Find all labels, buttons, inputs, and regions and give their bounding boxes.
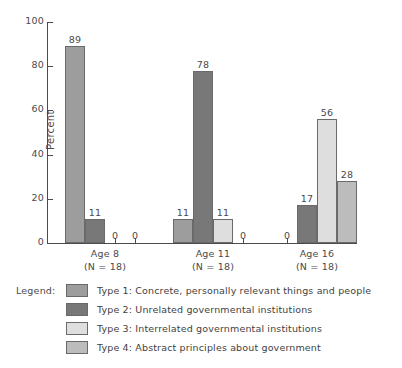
x-axis-group-label: Age 8(N = 18) — [65, 248, 145, 273]
group-name: Age 11 — [173, 248, 253, 261]
bar-chart-figure: Percent 020406080100 8911001178110017562… — [0, 0, 402, 368]
bar-value-label: 78 — [197, 59, 210, 70]
y-axis-tick-label: 100 — [10, 15, 44, 26]
x-axis-group-label: Age 11(N = 18) — [173, 248, 253, 273]
bar-value-label: 89 — [69, 34, 82, 45]
group-sample-size: (N = 18) — [173, 261, 253, 274]
x-axis-line — [47, 243, 357, 244]
x-axis-group-label: Age 16(N = 18) — [277, 248, 357, 273]
bar-value-label: 28 — [341, 169, 354, 180]
bar-value-label: 0 — [284, 230, 290, 241]
y-axis-tick-label: 80 — [10, 59, 44, 70]
legend-item-label: Type 3: Interrelated governmental instit… — [97, 323, 322, 334]
legend-rows: Type 1: Concrete, personally relevant th… — [16, 281, 396, 357]
legend-color-swatch — [66, 284, 88, 297]
bar-value-label: 0 — [112, 230, 118, 241]
legend-color-swatch — [66, 303, 88, 316]
y-axis-tick-mark — [48, 110, 53, 111]
bar-value-label: 56 — [321, 107, 334, 118]
y-axis-tick-mark — [48, 243, 53, 244]
bar-value-label: 11 — [89, 207, 102, 218]
bar: 89 — [65, 46, 85, 243]
legend-color-swatch — [66, 322, 88, 335]
bar: 11 — [85, 219, 105, 243]
y-axis-tick-mark — [48, 22, 53, 23]
group-name: Age 8 — [65, 248, 145, 261]
bar-value-label: 0 — [132, 230, 138, 241]
bar: 11 — [213, 219, 233, 243]
bar-value-label: 11 — [177, 207, 190, 218]
legend: Legend: Type 1: Concrete, personally rel… — [16, 281, 396, 357]
legend-color-swatch — [66, 341, 88, 354]
y-axis-tick-mark — [48, 155, 53, 156]
y-axis-tick-label: 40 — [10, 148, 44, 159]
group-name: Age 16 — [277, 248, 357, 261]
plot-area: Percent 020406080100 8911001178110017562… — [47, 22, 357, 244]
legend-item: Type 1: Concrete, personally relevant th… — [16, 281, 396, 300]
y-axis-tick-label: 20 — [10, 192, 44, 203]
y-axis-tick-mark — [48, 66, 53, 67]
bar-value-label: 17 — [301, 193, 314, 204]
y-axis-title: Percent — [45, 110, 56, 150]
legend-item: Type 3: Interrelated governmental instit… — [16, 319, 396, 338]
legend-item: Type 2: Unrelated governmental instituti… — [16, 300, 396, 319]
bar: 17 — [297, 205, 317, 243]
legend-item: Type 4: Abstract principles about govern… — [16, 338, 396, 357]
bar: 56 — [317, 119, 337, 243]
legend-item-label: Type 1: Concrete, personally relevant th… — [97, 285, 371, 296]
bar: 78 — [193, 71, 213, 243]
bar-value-label: 0 — [240, 230, 246, 241]
bar: 11 — [173, 219, 193, 243]
legend-item-label: Type 2: Unrelated governmental instituti… — [97, 304, 312, 315]
group-sample-size: (N = 18) — [65, 261, 145, 274]
group-sample-size: (N = 18) — [277, 261, 357, 274]
y-axis-tick-label: 0 — [10, 236, 44, 247]
legend-item-label: Type 4: Abstract principles about govern… — [97, 342, 321, 353]
y-axis-tick-mark — [48, 199, 53, 200]
bar-value-label: 11 — [217, 207, 230, 218]
y-axis-tick-label: 60 — [10, 103, 44, 114]
bar: 28 — [337, 181, 357, 243]
